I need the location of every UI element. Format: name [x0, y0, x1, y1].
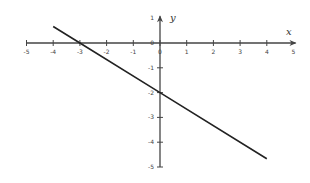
y-tick-label: -4	[148, 138, 154, 145]
x-tick-label: 4	[265, 48, 269, 55]
coordinate-plane: -5-4-3-2-10123451-1-2-3-4-50 x y	[0, 0, 310, 183]
x-axis-label: x	[286, 26, 292, 37]
y-axis-label: y	[169, 12, 176, 23]
x-tick-label: 0	[158, 48, 162, 55]
x-tick-label: 2	[211, 48, 215, 55]
x-tick-label: -1	[130, 48, 136, 55]
axes	[27, 15, 297, 167]
x-tick-label: 5	[292, 48, 296, 55]
y-tick-label: 1	[150, 14, 154, 21]
ticks	[27, 40, 267, 167]
y-tick-label: -2	[148, 89, 154, 96]
x-tick-label: -4	[50, 48, 56, 55]
y-tick-label: 0	[150, 39, 154, 46]
x-tick-label: 3	[238, 48, 242, 55]
y-tick-label: -5	[148, 163, 154, 170]
x-tick-label: 1	[185, 48, 189, 55]
x-tick-label: -5	[24, 48, 30, 55]
x-tick-label: -2	[104, 48, 110, 55]
y-tick-label: -3	[148, 113, 154, 120]
y-tick-label: -1	[148, 64, 154, 71]
x-tick-label: -3	[77, 48, 83, 55]
